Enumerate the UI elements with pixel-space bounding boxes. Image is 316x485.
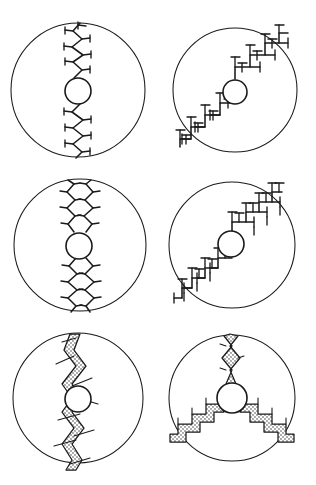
panel-a-canvas [0, 0, 158, 165]
panel-c [0, 160, 158, 325]
nucleus [223, 80, 247, 104]
panel-b [158, 0, 316, 165]
panel-c-canvas [0, 160, 158, 325]
nucleus [65, 78, 91, 104]
panel-f [158, 320, 316, 485]
nucleus [217, 383, 247, 413]
panel-f-canvas [158, 320, 316, 485]
panel-e-canvas [0, 320, 158, 485]
panel-d [158, 160, 316, 325]
panel-e [0, 320, 158, 485]
nucleus [218, 231, 244, 257]
panel-a [0, 0, 158, 165]
nucleus [65, 386, 91, 412]
figure-root [0, 0, 316, 485]
panel-b-canvas [158, 0, 316, 165]
nucleus [66, 233, 92, 259]
panel-d-canvas [158, 160, 316, 325]
